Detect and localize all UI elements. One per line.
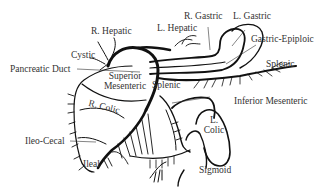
label-splenic-right: Splenic <box>266 59 295 69</box>
label-superior-mesenteric-line2: Mesenteric <box>104 81 146 91</box>
arterial-diagram: R. Hepatic L. Hepatic R. Gastric L. Gast… <box>0 0 328 187</box>
label-l-gastric: L. Gastric <box>233 11 271 21</box>
label-cystic: Cystic <box>71 50 95 60</box>
label-l-colic-line1: L. <box>210 115 218 125</box>
label-ileal: Ileal <box>83 159 100 169</box>
label-r-hepatic: R. Hepatic <box>91 26 132 36</box>
label-l-colic-line2: Colic <box>204 125 225 135</box>
label-l-colic: L. Colic <box>200 115 228 135</box>
label-superior-mesenteric-line1: Superior <box>109 71 142 81</box>
label-ileo-cecal: Ileo-Cecal <box>25 136 65 146</box>
label-gastric-epiploic: Gastric-Epiploic <box>251 34 314 44</box>
label-l-hepatic: L. Hepatic <box>157 23 197 33</box>
label-splenic-center: Splenic <box>152 80 181 90</box>
label-sigmoid: Sigmoid <box>199 165 231 175</box>
label-superior-mesenteric: Superior Mesenteric <box>98 71 152 91</box>
label-inferior-mesenteric: Inferior Mesenteric <box>234 96 308 106</box>
label-r-gastric: R. Gastric <box>184 11 223 21</box>
label-pancreatic-duct: Pancreatic Duct <box>10 64 70 74</box>
